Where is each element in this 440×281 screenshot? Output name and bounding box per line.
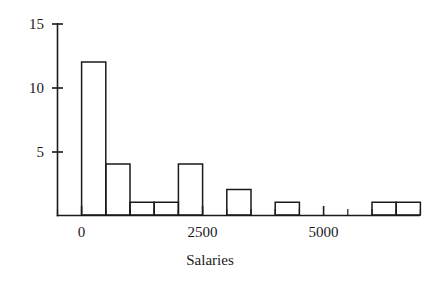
x-axis-minor-ticks (58, 209, 421, 215)
y-tick-label-5: 5 (37, 144, 45, 160)
histogram-bars (82, 62, 421, 215)
x-tick-label-0: 0 (78, 224, 86, 240)
bar-bin-8 (275, 202, 299, 215)
x-axis-title: Salaries (186, 252, 234, 268)
x-tick-label-5000: 5000 (309, 224, 339, 240)
x-tick-label-2500: 2500 (188, 224, 218, 240)
bar-bin-1 (106, 164, 130, 215)
bar-bin-6 (227, 190, 251, 216)
y-tick-label-15: 15 (29, 16, 44, 32)
y-axis-tick-labels: 15 10 5 (29, 16, 44, 160)
histogram-figure: 15 10 5 0 2500 5000 (0, 0, 440, 281)
y-tick-label-10: 10 (29, 80, 44, 96)
bar-bin-0 (82, 62, 106, 215)
bar-bin-3 (154, 202, 178, 215)
bar-bin-2 (130, 202, 154, 215)
bar-bin-12 (372, 202, 396, 215)
bar-bin-13 (396, 202, 420, 215)
bar-bin-4 (178, 164, 202, 215)
x-axis-tick-labels: 0 2500 5000 (78, 224, 339, 240)
